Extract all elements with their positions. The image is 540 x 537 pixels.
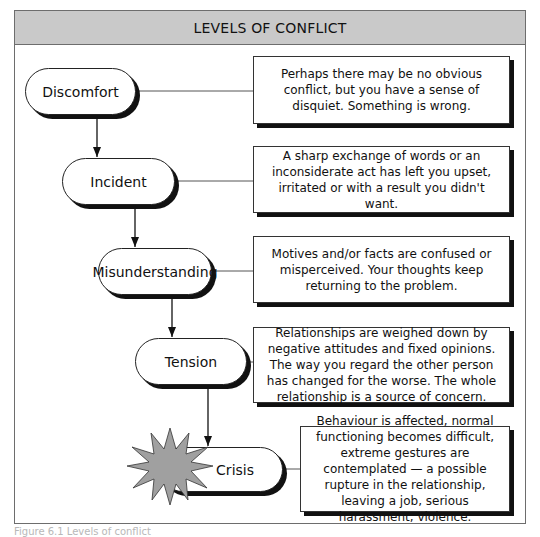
level-tension: Tension	[135, 338, 247, 385]
level-label: Tension	[165, 354, 217, 370]
description-tension: Relationships are weighed down by negati…	[253, 327, 510, 403]
level-label: Misunderstanding	[92, 264, 217, 280]
description-misunderstanding: Motives and/or facts are confused or mis…	[253, 236, 510, 303]
level-discomfort: Discomfort	[25, 68, 136, 115]
description-discomfort: Perhaps there may be no obvious conflict…	[253, 56, 510, 124]
figure-caption: Figure 6.1 Levels of conflict	[14, 526, 151, 537]
level-incident: Incident	[62, 158, 175, 205]
description-crisis: Behaviour is affected, normal functionin…	[300, 426, 510, 512]
level-crisis: Crisis	[160, 447, 283, 492]
level-label: Incident	[90, 174, 146, 190]
level-label: Crisis	[216, 462, 254, 478]
level-label: Discomfort	[42, 84, 119, 100]
level-misunderstanding: Misunderstanding	[98, 248, 212, 295]
description-incident: A sharp exchange of words or an inconsid…	[253, 146, 510, 213]
